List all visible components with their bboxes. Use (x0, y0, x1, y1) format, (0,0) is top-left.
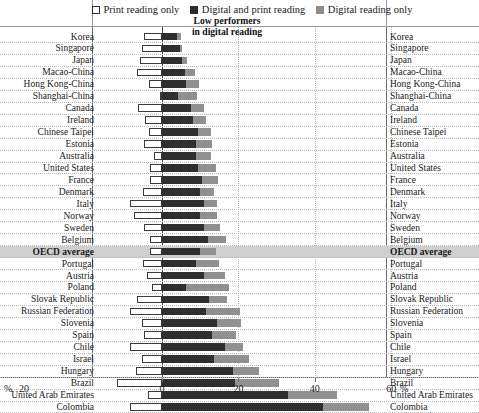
bar-digital-reading-only (191, 104, 204, 112)
row-label-right: Japan (390, 54, 412, 66)
bar-digital-and-print-reading (162, 92, 178, 100)
bar-print-reading-only (150, 248, 162, 256)
axis-tick-40 (315, 378, 316, 382)
bar-print-reading-only (142, 45, 162, 53)
bar-print-reading-only (136, 367, 162, 375)
row-label-left: Slovak Republic (31, 293, 94, 305)
bar-digital-and-print-reading (162, 104, 191, 112)
bar-digital-reading-only (196, 140, 212, 148)
row-label-left: Italy (77, 198, 94, 210)
row-label-left: Chinese Taipei (38, 126, 94, 138)
row-label-left: Norway (63, 210, 94, 222)
axis-tick-60 (391, 378, 392, 382)
chart-row: SwedenSweden (0, 222, 479, 234)
axis-tick-label-20: 20 (233, 383, 243, 395)
bar-print-reading-only (150, 164, 162, 172)
legend-item-both[interactable]: Digital and print reading (190, 4, 305, 15)
row-label-left: Belgium (61, 234, 94, 246)
row-label-right: Spain (390, 329, 412, 341)
bar-digital-and-print-reading (162, 176, 202, 184)
row-label-left: Chile (73, 341, 94, 353)
chart-row: ItalyItaly (0, 198, 479, 210)
bar-digital-and-print-reading (162, 331, 212, 339)
chart-row: AustriaAustria (0, 270, 479, 282)
bar-print-reading-only (142, 319, 162, 327)
bar-digital-and-print-reading (162, 260, 196, 268)
row-label-right: Slovak Republic (390, 293, 453, 305)
row-label-left: Singapore (55, 42, 94, 54)
chart-row: HungaryHungary (0, 365, 479, 377)
bar-digital-reading-only (200, 248, 216, 256)
bar-digital-reading-only (200, 188, 214, 196)
row-label-right: Singapore (390, 42, 429, 54)
bar-print-reading-only (130, 308, 162, 316)
bar-digital-reading-only (196, 152, 211, 160)
row-label-right: Portugal (390, 258, 422, 270)
row-label-left: Estonia (66, 138, 95, 150)
bar-digital-reading-only (204, 200, 217, 208)
bar-print-reading-only (145, 116, 162, 124)
bar-print-reading-only (138, 104, 162, 112)
bar-digital-and-print-reading (162, 248, 200, 256)
row-label-right: Shanghai-China (390, 90, 451, 102)
row-label-right: Macao-China (390, 66, 442, 78)
row-label-left: Poland (68, 281, 94, 293)
axis-tick-20 (238, 378, 239, 382)
row-label-left: Slovenia (61, 317, 94, 329)
chart-annotation: Low performers in digital reading (167, 15, 287, 37)
bar-print-reading-only (152, 284, 162, 292)
bar-digital-reading-only (323, 403, 369, 411)
chart-row: BelgiumBelgium (0, 234, 479, 246)
bar-print-reading-only (143, 188, 162, 196)
bar-digital-and-print-reading (162, 296, 209, 304)
chart-row: JapanJapan (0, 54, 479, 66)
row-label-left: Hungary (61, 365, 94, 377)
bar-digital-and-print-reading (162, 224, 204, 232)
bar-digital-reading-only (202, 176, 218, 184)
bar-digital-reading-only (209, 296, 227, 304)
bar-digital-and-print-reading (162, 45, 180, 53)
legend-item-digital[interactable]: Digital reading only (316, 4, 412, 15)
chart-row: United StatesUnited States (0, 162, 479, 174)
axis-tick-label-0: 0 (160, 383, 165, 395)
row-label-right: Austria (390, 270, 418, 282)
bar-digital-and-print-reading (162, 116, 193, 124)
bar-digital-reading-only (204, 224, 220, 232)
square-filled-dark-icon (190, 6, 198, 14)
bar-digital-reading-only (186, 284, 229, 292)
chart-row: FranceFrance (0, 174, 479, 186)
bar-print-reading-only (150, 176, 162, 184)
bar-digital-and-print-reading (162, 212, 200, 220)
axis-unit-right: % (400, 383, 408, 395)
bar-print-reading-only (154, 152, 162, 160)
square-filled-gray-icon (316, 6, 324, 14)
row-label-right: Russian Federation (390, 305, 463, 317)
row-label-left: Denmark (59, 186, 94, 198)
bar-digital-reading-only (206, 308, 239, 316)
bar-digital-reading-only (225, 343, 242, 351)
bar-digital-reading-only (200, 212, 217, 220)
axis-unit-left: % (4, 383, 12, 395)
bar-digital-reading-only (178, 92, 197, 100)
row-label-right: Chile (390, 341, 411, 353)
chart-row: PolandPoland (0, 281, 479, 293)
row-label-right: Hong Kong-China (390, 78, 460, 90)
row-label-left: OECD average (33, 246, 94, 258)
row-label-right: Chinese Taipei (390, 126, 446, 138)
bar-digital-reading-only (180, 45, 182, 53)
legend-item-print[interactable]: Print reading only (92, 4, 179, 15)
bar-digital-reading-only (212, 331, 235, 339)
chart-row: Slovak RepublicSlovak Republic (0, 293, 479, 305)
legend-label-print: Print reading only (104, 4, 180, 15)
bar-print-reading-only (130, 200, 162, 208)
row-label-left: Portugal (62, 258, 94, 270)
row-label-right: Estonia (390, 138, 419, 150)
bar-digital-and-print-reading (162, 80, 186, 88)
bar-digital-and-print-reading (162, 284, 186, 292)
bar-digital-reading-only (214, 355, 249, 363)
row-label-left: Hong Kong-China (24, 78, 94, 90)
row-label-right: Belgium (390, 234, 423, 246)
bar-digital-reading-only (198, 128, 210, 136)
bar-digital-and-print-reading (162, 272, 204, 280)
